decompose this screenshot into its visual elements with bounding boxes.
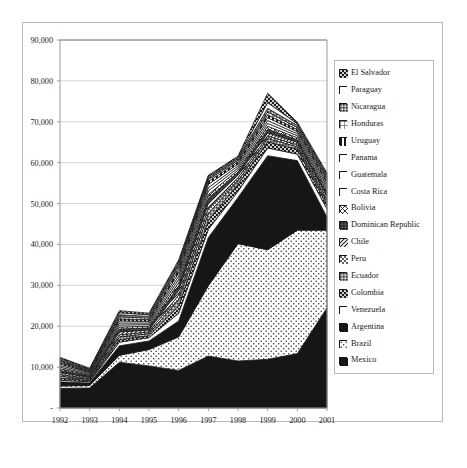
legend-item[interactable]: Paraguay [339, 82, 430, 99]
legend-swatch-icon [339, 188, 347, 196]
legend-item[interactable]: Colombia [339, 285, 430, 302]
chart-legend: El SalvadorParaguayNicaraguaHondurasUrug… [334, 60, 434, 374]
legend-item[interactable]: Brazil [339, 335, 430, 352]
legend-item[interactable]: Chile [339, 234, 430, 251]
legend-item-label: Paraguay [351, 86, 382, 94]
legend-swatch-icon [339, 69, 347, 77]
legend-swatch-icon [339, 238, 347, 246]
legend-item-label: El Salvador [351, 69, 390, 77]
legend-item-label: Bolivia [351, 204, 375, 212]
legend-item-label: Honduras [351, 120, 383, 128]
x-axis-tick-label: 2000 [289, 416, 305, 425]
legend-item[interactable]: Costa Rica [339, 183, 430, 200]
area-series-layer [60, 93, 327, 408]
x-axis-tick-label: 1999 [259, 416, 275, 425]
y-axis-tick-label: 50,000 [30, 200, 53, 209]
legend-item[interactable]: Nicaragua [339, 99, 430, 116]
legend-item[interactable]: Uruguay [339, 133, 430, 150]
legend-item[interactable]: Bolivia [339, 200, 430, 217]
legend-item-label: Brazil [351, 340, 371, 348]
legend-item-label: Uruguay [351, 137, 380, 145]
x-axis-tick-label: 1995 [141, 416, 157, 425]
legend-item-label: Argentina [351, 323, 384, 331]
legend-swatch-icon [339, 120, 347, 128]
y-axis-tick-label: 10,000 [30, 363, 53, 372]
legend-swatch-icon [339, 86, 347, 94]
legend-swatch-icon [339, 357, 347, 365]
x-axis-tick-label: 2001 [319, 416, 335, 425]
x-axis-tick-label: 1997 [200, 416, 216, 425]
x-axis-tick-label: 1993 [81, 416, 97, 425]
legend-item-label: Panama [351, 154, 377, 162]
legend-swatch-icon [339, 103, 347, 111]
y-axis-tick-labels: 90,00080,00070,00060,00050,00040,00030,0… [30, 36, 53, 413]
legend-item-label: Nicaragua [351, 103, 385, 111]
legend-swatch-icon [339, 306, 347, 314]
legend-swatch-icon [339, 154, 347, 162]
y-axis-tick-label: 90,000 [30, 36, 53, 45]
y-axis-tick-label: 60,000 [30, 159, 53, 168]
x-axis-tick-label: 1998 [230, 416, 246, 425]
legend-item-label: Dominican Republic [351, 221, 420, 229]
legend-swatch-icon [339, 205, 347, 213]
y-axis-tick-label: 80,000 [30, 77, 53, 86]
x-axis-tick-label: 1994 [111, 416, 127, 425]
x-axis-tick-label: 1996 [170, 416, 186, 425]
legend-item-label: Colombia [351, 289, 384, 297]
legend-item-label: Chile [351, 238, 369, 246]
legend-item[interactable]: Ecuador [339, 268, 430, 285]
legend-swatch-icon [339, 137, 347, 145]
legend-item-label: Venezuela [351, 306, 385, 314]
legend-swatch-icon [339, 255, 347, 263]
legend-item[interactable]: Argentina [339, 318, 430, 335]
x-axis-tick-label: 1992 [52, 416, 68, 425]
legend-item[interactable]: Honduras [339, 116, 430, 133]
legend-swatch-icon [339, 171, 347, 179]
legend-item[interactable]: Dominican Republic [339, 217, 430, 234]
legend-swatch-icon [339, 221, 347, 229]
legend-swatch-icon [339, 340, 347, 348]
y-axis-tick-label: 70,000 [30, 118, 53, 127]
y-axis-tick-label: 40,000 [30, 240, 53, 249]
legend-swatch-icon [339, 323, 347, 331]
legend-item-label: Ecuador [351, 272, 379, 280]
legend-item-label: Peru [351, 255, 366, 263]
legend-swatch-icon [339, 272, 347, 280]
y-axis-tick-label: 30,000 [30, 281, 53, 290]
legend-item[interactable]: Venezuela [339, 301, 430, 318]
y-axis-tick-label: - [50, 404, 53, 413]
x-axis-tick-labels: 1992199319941995199619971998199920002001 [52, 416, 335, 425]
legend-item[interactable]: El Salvador [339, 65, 430, 82]
legend-item[interactable]: Mexico [339, 352, 430, 369]
y-axis-tick-label: 20,000 [30, 322, 53, 331]
legend-item[interactable]: Panama [339, 149, 430, 166]
legend-item[interactable]: Peru [339, 251, 430, 268]
legend-item-label: Guatemala [351, 171, 387, 179]
legend-item[interactable]: Guatemala [339, 166, 430, 183]
legend-swatch-icon [339, 289, 347, 297]
legend-item-label: Costa Rica [351, 188, 387, 196]
legend-item-label: Mexico [351, 356, 376, 364]
